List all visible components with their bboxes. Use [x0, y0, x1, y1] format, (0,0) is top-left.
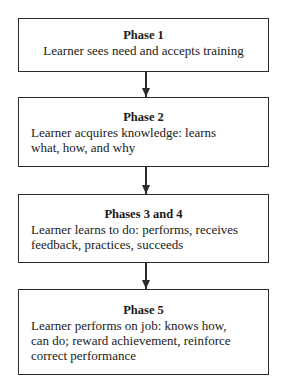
phase-2-title: Phase 2	[19, 110, 268, 125]
phase-5-text-line-2: can do; reward achievement, reinforce	[19, 333, 268, 348]
phase-5-title: Phase 5	[19, 303, 268, 318]
phase-5-box: Phase 5 Learner performs on job: knows h…	[18, 289, 269, 375]
phase-3-4-text-line-2: feedback, practices, succeeds	[19, 237, 268, 252]
phase-3-4-text-line-1: Learner learns to do: performs, receives	[19, 222, 268, 237]
arrowhead	[142, 280, 150, 289]
phase-1-text: Learner sees need and accepts training	[19, 43, 268, 58]
phase-2-text-line-2: what, how, and why	[19, 140, 268, 155]
phase-1-title: Phase 1	[19, 28, 268, 43]
arrow-down-icon	[145, 167, 147, 194]
phase-3-4-title: Phases 3 and 4	[19, 207, 268, 222]
arrow-down-icon	[145, 72, 147, 97]
phase-2-box: Phase 2 Learner acquires knowledge: lear…	[18, 97, 269, 167]
phase-1-box: Phase 1 Learner sees need and accepts tr…	[18, 18, 269, 72]
arrowhead	[142, 185, 150, 194]
arrowhead	[142, 88, 150, 97]
arrow-down-icon	[145, 263, 147, 289]
phase-5-text-line-3: correct performance	[19, 348, 268, 363]
phase-2-text-line-1: Learner acquires knowledge: learns	[19, 125, 268, 140]
phase-3-4-box: Phases 3 and 4 Learner learns to do: per…	[18, 194, 269, 263]
phase-5-text-line-1: Learner performs on job: knows how,	[19, 318, 268, 333]
